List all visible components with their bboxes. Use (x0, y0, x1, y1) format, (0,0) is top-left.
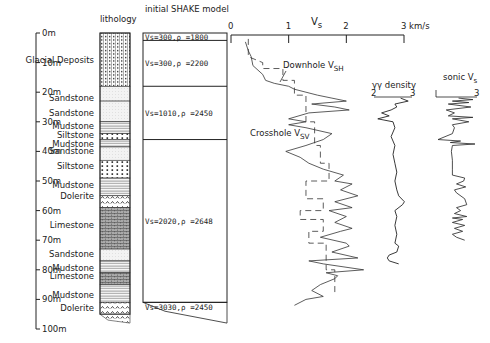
lithology-layer (100, 178, 130, 196)
lithology-label: Mudstone (52, 290, 94, 300)
shake-layer-label: Vs=1010,ρ =2450 (145, 109, 213, 118)
depth-tick-label: 70m (42, 235, 61, 245)
lithology-layer (100, 140, 130, 147)
lithology-layer (100, 249, 130, 261)
vs-profile: Vs0123 km/sDownhole VSHCrosshole VSV (228, 16, 430, 305)
lithology-layer (100, 134, 130, 140)
shake-model-title: initial SHAKE model (145, 4, 229, 14)
depth-tick-label: 100m (42, 324, 67, 334)
shake-layer-label: Vs=3030,ρ =2450 (145, 303, 213, 312)
depth-tick-label: 0m (42, 28, 56, 38)
downhole-vs-trace (248, 39, 334, 294)
lithology-layer (100, 147, 130, 160)
lithology-label: Mudstone (52, 180, 94, 190)
density-log: γγ density23 (371, 80, 416, 264)
sonic-trace (438, 98, 475, 240)
lithology-label: Sandstone (49, 249, 94, 259)
lithology-label: Dolerite (60, 303, 94, 313)
downhole-label: Downhole VSH (283, 60, 344, 73)
shake-model-column: initial SHAKE modelVs=300,ρ =1800Vs=300,… (143, 4, 229, 323)
lithology-label: Sandstone (49, 146, 94, 156)
density-trace (378, 98, 408, 264)
lithology-layer (100, 101, 130, 122)
lithology-layer (100, 261, 130, 273)
crosshole-label: Crosshole VSV (250, 128, 310, 141)
lithology-label: Sandstone (49, 93, 94, 103)
sonic-tick-3: 3 (474, 88, 479, 98)
vs-axis-tick-label: 0 (228, 21, 233, 31)
lithology-layer (100, 208, 130, 249)
vs-axis-tick-label: 2 (343, 21, 348, 31)
vs-axis-tick-label: 3 km/s (401, 21, 430, 31)
lithology-label: Limestone (50, 220, 94, 230)
shake-layer-label: Vs=300,ρ =2200 (145, 59, 209, 68)
lithology-layer (100, 302, 130, 314)
chart-canvas: 0m10m20m30m40m50m60m70m80m90m100mlitholo… (0, 0, 490, 343)
lithology-layer (100, 196, 130, 208)
lithology-title: lithology (100, 14, 137, 24)
geotechnical-log-figure: 0m10m20m30m40m50m60m70m80m90m100mlitholo… (0, 0, 490, 343)
lithology-column: lithologyGlacial DepositsSandstoneSandst… (26, 14, 137, 323)
lithology-label: Siltstone (57, 161, 94, 171)
shake-layer-label: Vs=2020,ρ =2648 (145, 217, 213, 226)
lithology-layer (100, 160, 130, 178)
density-tick-2: 2 (371, 88, 376, 98)
density-tick-3: 3 (410, 88, 415, 98)
lithology-layer (100, 273, 130, 285)
lithology-layer (100, 86, 130, 101)
lithology-layer (100, 285, 130, 303)
vs-axis-tick-label: 1 (286, 21, 291, 31)
lithology-layer (100, 33, 130, 86)
lithology-label: Glacial Deposits (26, 55, 95, 65)
shake-model-outline (143, 33, 227, 302)
lithology-label: Dolerite (60, 191, 94, 201)
vs-axis-title: Vs (311, 16, 323, 30)
sonic-log: sonic Vs3 (436, 72, 479, 240)
sonic-title: sonic Vs (443, 72, 478, 85)
lithology-label: Sandstone (49, 108, 94, 118)
depth-tick-label: 60m (42, 206, 61, 216)
crosshole-vs-trace (245, 42, 363, 305)
lithology-label: Limestone (50, 271, 94, 281)
lithology-base (100, 314, 130, 323)
lithology-layer (100, 122, 130, 134)
